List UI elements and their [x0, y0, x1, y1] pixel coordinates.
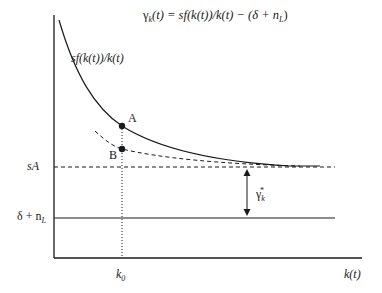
k0-subscript: 0	[121, 274, 125, 283]
k0-label: k0	[116, 267, 125, 283]
point-a-label: A	[128, 111, 137, 126]
dashed-curve	[95, 131, 300, 166]
delta-n-subscript: L	[41, 216, 45, 225]
point-b-marker	[119, 146, 125, 152]
point-a-marker	[119, 123, 125, 129]
sf-over-k-curve	[59, 20, 320, 166]
equation-title: γk(t) = sf(k(t))/k(t) − (δ + nL)	[143, 8, 288, 24]
diagram-canvas	[0, 0, 382, 293]
arrow-up-head-icon	[244, 169, 251, 176]
equation-close: )	[283, 8, 287, 22]
delta-n-label: δ + nL	[17, 209, 46, 225]
gamma-star-subscript: k	[261, 194, 265, 203]
gamma-star-label: γk*	[256, 186, 264, 203]
point-b-label: B	[109, 148, 117, 163]
sA-label: sA	[27, 159, 39, 174]
x-axis-label: k(t)	[344, 267, 361, 282]
gamma-star-superscript: *	[260, 186, 264, 195]
equation-body: (t) = sf(k(t))/k(t) − (δ + n	[152, 8, 279, 22]
curve-label: sf(k(t))/k(t)	[71, 51, 124, 66]
arrow-down-head-icon	[244, 209, 251, 216]
delta-n-prefix: δ + n	[17, 209, 41, 223]
